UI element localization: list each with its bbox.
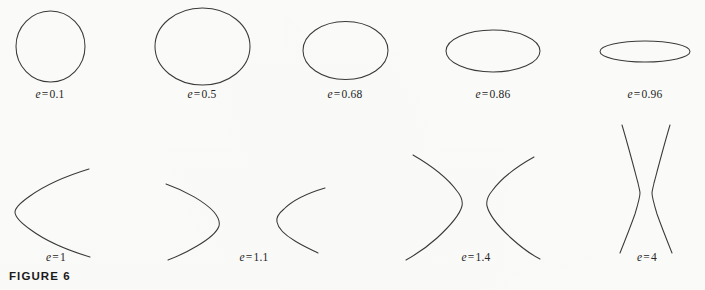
hyperbola-shape-e-1-1-left <box>166 184 219 260</box>
caption-equals: = <box>481 88 490 100</box>
ellipse-shape-e-0-86 <box>446 30 540 72</box>
hyperbola-shape-e-4-right <box>652 125 672 253</box>
caption-value: 1.4 <box>476 251 491 263</box>
caption-value: 0.86 <box>490 88 511 100</box>
ellipse-shape-e-0-68 <box>303 22 388 80</box>
caption-equals: = <box>642 251 651 263</box>
caption-parabola-e-1: e=1 <box>46 251 66 263</box>
caption-value: 0.1 <box>50 88 65 100</box>
caption-ellipse-e-0-96: e=0.96 <box>628 88 663 100</box>
conic-sections-drawing <box>0 0 705 290</box>
hyperbola-shape-e-1-4-right <box>487 157 540 259</box>
ellipse-shape-e-0-1 <box>16 11 85 82</box>
caption-equals: = <box>333 88 342 100</box>
caption-value: 0.5 <box>202 88 217 100</box>
caption-equals: = <box>51 251 60 263</box>
caption-value: 1.1 <box>254 251 269 263</box>
ellipse-shape-e-0-96 <box>600 41 690 62</box>
caption-equals: = <box>467 251 476 263</box>
caption-equals: = <box>41 88 50 100</box>
caption-equals: = <box>245 251 254 263</box>
ellipse-shape-e-0-5 <box>155 8 250 85</box>
caption-value: 0.96 <box>642 88 663 100</box>
caption-hyperbola-e-1-4: e=1.4 <box>462 251 491 263</box>
caption-equals: = <box>193 88 202 100</box>
caption-ellipse-e-0-68: e=0.68 <box>328 88 363 100</box>
figure-container: e=0.1 e=0.5 e=0.68 e=0.86 e=0.96 e=1 e=1… <box>0 0 705 290</box>
parabola-shape-e-1 <box>15 169 90 257</box>
caption-value: 1 <box>60 251 66 263</box>
caption-hyperbola-e-4: e=4 <box>637 251 657 263</box>
hyperbola-shape-e-1-4-left <box>406 155 462 260</box>
hyperbola-shape-e-4-left <box>620 125 640 253</box>
caption-ellipse-e-0-1: e=0.1 <box>36 88 65 100</box>
hyperbola-shape-e-1-1-right <box>277 188 325 253</box>
caption-hyperbola-e-1-1: e=1.1 <box>240 251 269 263</box>
caption-value: 0.68 <box>342 88 363 100</box>
caption-value: 4 <box>651 251 657 263</box>
caption-ellipse-e-0-86: e=0.86 <box>476 88 511 100</box>
caption-equals: = <box>633 88 642 100</box>
caption-ellipse-e-0-5: e=0.5 <box>188 88 217 100</box>
figure-number-label: FIGURE 6 <box>9 270 71 282</box>
